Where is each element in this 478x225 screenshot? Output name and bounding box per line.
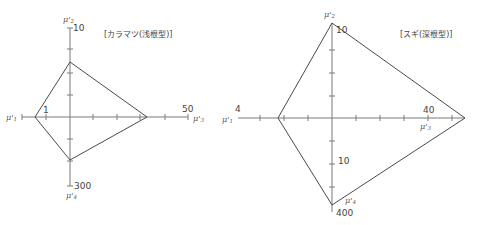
axis-label-mu3: μ'3 — [420, 122, 431, 131]
scale-label-bottom: 300 — [74, 181, 91, 191]
scale-label-left: 1 — [43, 105, 49, 115]
scale-label-left: 4 — [235, 104, 241, 114]
axis-label-mu4: μ'4 — [345, 196, 356, 205]
scale-label-bottom: 400 — [336, 208, 353, 218]
axis-label-mu1: μ'1 — [6, 113, 17, 122]
axis-label-mu2: μ'2 — [324, 10, 335, 19]
axis-label-mu1: μ'1 — [222, 115, 233, 124]
radar-diagrams: [カラマツ(浅根型)] 10 1 50 300 μ'2 μ'1 μ'3 μ'4 — [0, 0, 478, 225]
chart-karamatsu: [カラマツ(浅根型)] 10 1 50 300 μ'2 μ'1 μ'3 μ'4 — [6, 15, 204, 200]
scale-label-top: 10 — [336, 25, 348, 35]
scale-label-right: 40 — [423, 105, 435, 115]
axis-label-mu4: μ'4 — [66, 191, 77, 200]
chart-title: [カラマツ(浅根型)] — [104, 29, 172, 39]
data-polygon — [278, 23, 465, 205]
data-polygon — [35, 62, 147, 160]
scale-label-right: 50 — [182, 104, 194, 114]
chart-title: [スギ(深根型)] — [400, 29, 452, 39]
scale-label-top: 10 — [73, 23, 85, 33]
chart-sugi: [スギ(深根型)] 10 4 40 10 400 μ'2 μ'1 μ'3 μ'4 — [222, 10, 465, 218]
scale-label-inner: 10 — [338, 156, 350, 166]
axis-label-mu3: μ'3 — [193, 114, 204, 123]
axis-label-mu2: μ'2 — [63, 15, 74, 24]
